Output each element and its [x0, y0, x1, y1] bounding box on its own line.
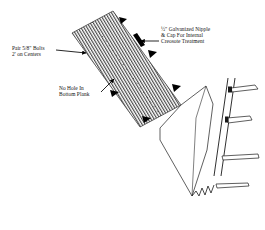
- bolts-leader-line: [56, 50, 86, 53]
- galvanized-nipple-callout: ½" Galvanized Nipple & Cap For Internal …: [161, 26, 210, 45]
- pair-bolts-callout: Pair 5/8" Bolts 2' on Centers: [12, 45, 45, 57]
- no-hole-callout: No Hole In Bottom Plank: [59, 85, 89, 97]
- technical-drawing-svg: [0, 0, 265, 230]
- timber-pile: [214, 78, 235, 176]
- diagram-root: Pair 5/8" Bolts 2' on Centers No Hole In…: [0, 0, 265, 230]
- pair-bolts-line2: 2' on Centers: [12, 51, 45, 57]
- no-hole-line2: Bottom Plank: [59, 91, 89, 97]
- nipple-line3: Creosote Treatment: [161, 38, 210, 44]
- cross-members: [216, 85, 259, 188]
